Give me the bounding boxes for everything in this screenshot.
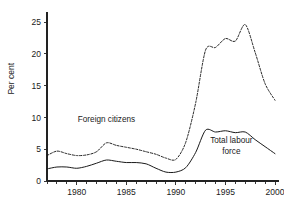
series-label: Total labour <box>210 136 253 145</box>
y-tick-label: 5 <box>36 144 41 154</box>
chart-tick-labels: 051015202519801985199019952000 <box>32 17 284 197</box>
y-axis-title-text: Per cent <box>6 62 16 94</box>
chart-figure: 051015202519801985199019952000 Foreign c… <box>0 0 284 209</box>
x-tick-label: 1995 <box>216 187 235 197</box>
x-tick-label: 1980 <box>67 187 86 197</box>
chart-annotations: Foreign citizensTotal labourforce <box>78 115 253 156</box>
y-tick-label: 15 <box>32 81 42 91</box>
chart-ticks <box>44 22 276 185</box>
y-axis-title: Per cent <box>6 62 16 94</box>
chart-series <box>47 24 275 172</box>
series-label: Foreign citizens <box>78 115 135 124</box>
line-chart: 051015202519801985199019952000 Foreign c… <box>0 0 284 209</box>
x-tick-label: 1990 <box>166 187 185 197</box>
series-label: force <box>222 147 241 156</box>
x-tick-label: 2000 <box>266 187 284 197</box>
y-tick-label: 0 <box>36 176 41 186</box>
y-tick-label: 25 <box>32 17 42 27</box>
y-tick-label: 20 <box>32 49 42 59</box>
y-tick-label: 10 <box>32 113 42 123</box>
x-tick-label: 1985 <box>117 187 136 197</box>
